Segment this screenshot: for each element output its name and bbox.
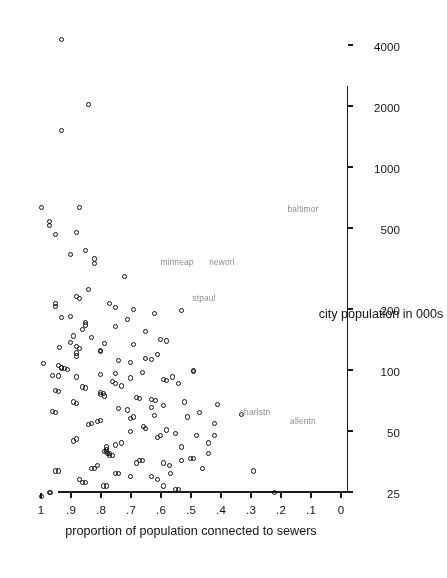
- data-point: [89, 335, 94, 340]
- data-point: [86, 422, 91, 427]
- x-tick-label: 1000: [356, 163, 400, 175]
- data-point: [119, 440, 124, 445]
- data-point: [153, 398, 158, 403]
- data-point: [53, 304, 58, 309]
- data-point: [65, 367, 70, 372]
- data-point: [212, 421, 217, 426]
- data-point: [102, 341, 107, 346]
- data-point: [128, 416, 133, 421]
- data-point: [173, 487, 178, 492]
- data-point: [92, 261, 97, 266]
- data-point: [215, 402, 220, 407]
- x-tick-label: 2000: [356, 102, 400, 114]
- data-point: [68, 340, 73, 345]
- data-point: [83, 480, 88, 485]
- data-point: [113, 371, 118, 376]
- data-point: [86, 287, 91, 292]
- data-point: [95, 419, 100, 424]
- data-point: [182, 399, 187, 404]
- data-point: [39, 494, 44, 499]
- data-point: [56, 373, 61, 378]
- data-point: [128, 360, 133, 365]
- data-point: [47, 219, 52, 224]
- data-point: [102, 393, 107, 398]
- data-point: [59, 315, 64, 320]
- data-point: [59, 37, 64, 42]
- data-point: [179, 308, 184, 313]
- data-point: [197, 410, 202, 415]
- data-point: [89, 466, 94, 471]
- data-point: [104, 483, 109, 488]
- y-tick: [190, 493, 191, 498]
- data-point: [143, 356, 148, 361]
- data-point: [164, 378, 169, 383]
- data-point: [116, 471, 121, 476]
- data-point: [74, 374, 79, 379]
- y-tick-label: .1: [296, 504, 326, 516]
- data-point: [59, 128, 64, 133]
- data-point: [155, 435, 160, 440]
- data-point: [164, 427, 169, 432]
- data-point: [98, 349, 103, 354]
- data-point: [152, 311, 157, 316]
- data-point: [113, 442, 118, 447]
- data-point: [119, 383, 124, 388]
- x-tick-label: 500: [356, 224, 400, 236]
- y-tick-label: .2: [266, 504, 296, 516]
- data-point: [68, 252, 73, 257]
- data-point: [122, 274, 127, 279]
- y-axis-title: proportion of population connected to se…: [41, 524, 341, 538]
- x-tick: [348, 491, 353, 492]
- data-point: [110, 453, 115, 458]
- y-tick-label: 0: [326, 504, 356, 516]
- y-tick-label: .4: [206, 504, 236, 516]
- data-point: [74, 401, 79, 406]
- data-point: [98, 372, 103, 377]
- data-point: [77, 205, 82, 210]
- data-point: [128, 375, 133, 380]
- data-point: [113, 324, 118, 329]
- x-tick: [348, 44, 353, 45]
- y-tick: [340, 493, 341, 498]
- data-point: [80, 327, 85, 332]
- data-point: [83, 386, 88, 391]
- data-point: [128, 474, 133, 479]
- y-tick-label: 1: [26, 504, 56, 516]
- data-point: [161, 460, 166, 465]
- data-point: [191, 369, 196, 374]
- data-point: [134, 460, 139, 465]
- data-point: [140, 370, 145, 375]
- data-point: [168, 471, 173, 476]
- data-point: [125, 407, 130, 412]
- y-tick: [100, 493, 101, 498]
- data-point: [251, 468, 256, 473]
- data-point: [128, 429, 133, 434]
- annotation-charlstn: charlstn: [234, 407, 278, 417]
- data-point: [143, 329, 148, 334]
- data-point: [113, 381, 118, 386]
- x-tick-label: 100: [356, 366, 400, 378]
- data-point: [39, 205, 44, 210]
- data-point: [56, 389, 61, 394]
- annotation-minneap: minneap: [156, 257, 200, 267]
- annotation-neworl: neworl: [201, 257, 245, 267]
- x-tick: [348, 166, 353, 167]
- data-point: [71, 333, 76, 338]
- data-point: [206, 451, 211, 456]
- data-point: [179, 444, 184, 449]
- y-tick-label: .7: [116, 504, 146, 516]
- data-point: [53, 468, 58, 473]
- data-point: [74, 353, 79, 358]
- data-point: [74, 230, 79, 235]
- data-point: [53, 410, 58, 415]
- y-tick: [70, 493, 71, 498]
- x-axis-title: city population in 000s: [301, 307, 447, 321]
- data-point: [155, 352, 160, 357]
- data-point: [191, 456, 196, 461]
- x-tick: [348, 105, 353, 106]
- y-tick-label: .3: [236, 504, 266, 516]
- data-point: [176, 381, 181, 386]
- y-tick: [310, 493, 311, 498]
